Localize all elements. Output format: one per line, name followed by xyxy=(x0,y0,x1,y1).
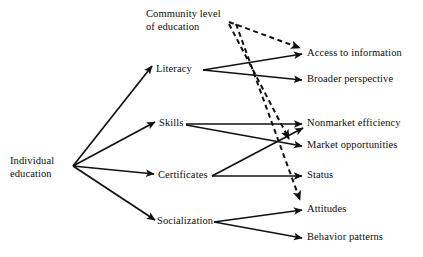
edge-skills-to-market xyxy=(186,125,302,146)
edge-community-to-attitudes xyxy=(236,24,300,200)
edge-socialization-to-behavior xyxy=(214,222,302,238)
node-status: Status xyxy=(307,169,333,181)
edge-individual-to-certificates xyxy=(73,166,154,174)
node-certificates: Certificates xyxy=(158,169,208,181)
node-socialization: Socialization xyxy=(157,215,213,227)
edge-individual-to-socialization xyxy=(73,166,155,220)
edge-literacy-to-broader xyxy=(203,70,302,80)
node-access-to-information: Access to information xyxy=(307,47,402,59)
edge-individual-to-skills xyxy=(73,122,155,166)
node-attitudes: Attitudes xyxy=(307,203,346,215)
node-broader-perspective: Broader perspective xyxy=(307,73,393,85)
node-market-opportunities: Market opportunities xyxy=(307,139,397,151)
node-nonmarket-efficiency: Nonmarket efficiency xyxy=(307,117,401,129)
node-community-level-of-education: Community level of education xyxy=(146,8,221,33)
edge-socialization-to-attitudes xyxy=(214,210,302,222)
node-individual-education: Individual education xyxy=(10,155,54,180)
edge-certificates-to-nonmarket xyxy=(212,128,303,176)
diagram-canvas: Individual education Community level of … xyxy=(0,0,423,257)
edge-individual-to-literacy xyxy=(73,66,152,166)
node-behavior-patterns: Behavior patterns xyxy=(307,231,383,243)
node-skills: Skills xyxy=(159,117,184,129)
node-literacy: Literacy xyxy=(156,63,192,75)
